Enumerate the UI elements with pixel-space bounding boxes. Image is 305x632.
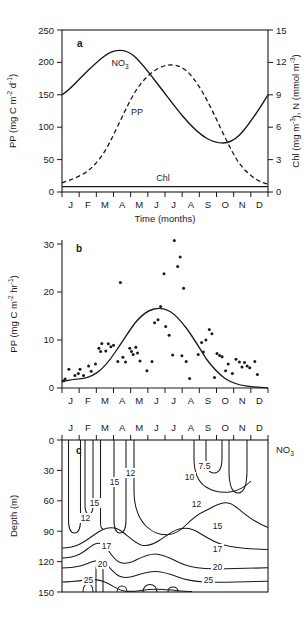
panel-b-month-ticks [62, 388, 268, 393]
svg-text:150: 150 [38, 89, 54, 100]
panel-c-depth-tick-labels: 0 30 60 90 120 150 [38, 435, 54, 598]
svg-text:90: 90 [43, 526, 54, 537]
svg-text:9: 9 [276, 89, 281, 100]
svg-text:PP (mg C m-2 hr-1): PP (mg C m-2 hr-1) [7, 275, 19, 352]
month-label: A [119, 422, 126, 433]
figure-container: 0 50 100 150 200 250 0 3 6 9 1 [0, 0, 305, 632]
panel-c-month-labels: J F M A M J J A S O N D [68, 422, 263, 433]
panel-a-frame [62, 30, 268, 192]
month-label: A [188, 199, 195, 210]
svg-text:6: 6 [276, 121, 281, 132]
panel-c-yaxis-title: Depth (m) [8, 495, 19, 537]
svg-text:0: 0 [49, 186, 54, 197]
month-label: N [239, 199, 246, 210]
contour-label: 12 [192, 499, 202, 509]
contour-label: 20 [213, 562, 223, 572]
contour-label: 25 [84, 575, 94, 585]
contour-label: 7.5 [199, 461, 211, 471]
chl-curve-label: Chl [156, 173, 170, 183]
svg-text:15: 15 [276, 25, 287, 36]
svg-text:0: 0 [49, 382, 54, 393]
month-label: F [85, 422, 91, 433]
pp-curve [62, 65, 268, 184]
panel-b-ytick-labels: 0 10 20 30 [43, 239, 54, 394]
panel-a-svg: 0 50 100 150 200 250 0 3 6 9 1 [0, 20, 305, 225]
month-label: S [205, 395, 211, 406]
month-label: A [188, 395, 195, 406]
contour-label: 12 [81, 513, 91, 523]
svg-text:PP (mg C m-2 d-1): PP (mg C m-2 d-1) [6, 74, 18, 148]
month-label: J [171, 199, 176, 210]
month-label: M [135, 422, 143, 433]
month-label: J [68, 395, 73, 406]
svg-text:10: 10 [43, 334, 54, 345]
panel-a-right-tick-labels: 0 3 6 9 12 15 [276, 25, 287, 198]
svg-text:Depth (m): Depth (m) [8, 495, 19, 537]
month-label: O [221, 395, 228, 406]
month-label: F [85, 395, 91, 406]
panel-b-yaxis-title: PP (mg C m-2 hr-1) [7, 275, 19, 352]
month-label: M [101, 422, 109, 433]
panel-a-letter: a [77, 38, 83, 49]
svg-text:150: 150 [38, 587, 54, 598]
panel-a: 0 50 100 150 200 250 0 3 6 9 1 [0, 20, 305, 225]
panel-b-ytick-marks [57, 244, 62, 388]
panel-b-scatter-points [62, 239, 259, 382]
month-label: O [221, 422, 228, 433]
contour-label: 15 [90, 498, 100, 508]
svg-text:120: 120 [38, 556, 54, 567]
month-label: M [101, 395, 109, 406]
panel-a-right-ticks [268, 30, 273, 192]
panel-b-fit-curve [62, 308, 268, 387]
svg-text:60: 60 [43, 495, 54, 506]
panel-b-letter: b [76, 243, 82, 254]
panel-b-svg: 0 10 20 30 J F [0, 228, 305, 408]
month-label: N [239, 395, 246, 406]
panel-a-left-tick-labels: 0 50 100 150 200 250 [38, 25, 54, 198]
month-label: J [154, 395, 159, 406]
panel-a-yaxis-right-title: Chl (mg m-3), N (mmol m-3) [289, 54, 301, 167]
contour-label: 15 [110, 477, 120, 487]
month-label: S [205, 422, 211, 433]
month-label: J [68, 422, 73, 433]
svg-text:100: 100 [38, 121, 54, 132]
contour-label: 10 [185, 472, 195, 482]
month-label: D [256, 395, 263, 406]
contour-label: 20 [98, 559, 108, 569]
svg-text:50: 50 [43, 154, 54, 165]
panel-a-month-labels: J F M A M J J A S O N D [68, 199, 263, 210]
panel-b-frame [62, 240, 268, 388]
month-label: M [135, 395, 143, 406]
panel-c-month-ticks [62, 435, 268, 440]
month-label: M [101, 199, 109, 210]
contour-label: 12 [126, 468, 136, 478]
no3-curve-label: NO3 [111, 58, 129, 70]
panel-c-depth-ticks [57, 440, 62, 592]
panel-c-contours [62, 440, 268, 592]
panel-a-xaxis-title: Time (months) [135, 213, 196, 224]
month-label: O [221, 199, 228, 210]
contour-label: 25 [204, 575, 214, 585]
month-label: A [119, 199, 126, 210]
panel-c-svg: J F M A M J J A S O N D [0, 410, 305, 632]
svg-text:250: 250 [38, 25, 54, 36]
month-label: S [205, 199, 211, 210]
month-label: J [154, 422, 159, 433]
svg-text:0: 0 [276, 186, 281, 197]
panel-b-month-labels: J F M A M J J A S O N D [68, 395, 263, 406]
pp-curve-label: PP [131, 107, 143, 117]
svg-text:Chl (mg m-3), N (mmol m-3): Chl (mg m-3), N (mmol m-3) [289, 54, 301, 167]
panel-a-yaxis-left-title: PP (mg C m-2 d-1) [6, 74, 18, 148]
month-label: A [119, 395, 126, 406]
svg-text:12: 12 [276, 56, 287, 67]
panel-b: 0 10 20 30 J F [0, 228, 305, 408]
contour-label: 15 [213, 521, 223, 531]
month-label: D [256, 422, 263, 433]
svg-text:30: 30 [43, 465, 54, 476]
svg-text:20: 20 [43, 286, 54, 297]
month-label: J [154, 199, 159, 210]
month-label: J [171, 395, 176, 406]
contour-label: 17 [102, 541, 112, 551]
no3-curve [62, 50, 268, 143]
month-label: A [188, 422, 195, 433]
